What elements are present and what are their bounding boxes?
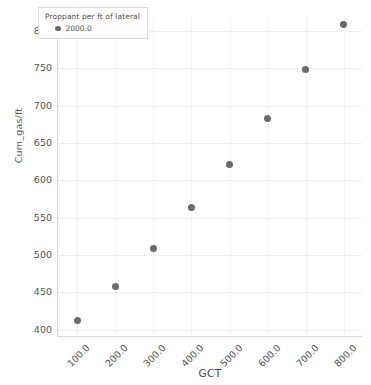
y-tick-label: 500 bbox=[10, 250, 52, 260]
legend-item[interactable]: 2000.0 bbox=[45, 24, 140, 33]
data-point bbox=[112, 283, 119, 290]
y-tick-label: 700 bbox=[10, 101, 52, 111]
data-point bbox=[188, 204, 195, 211]
data-point bbox=[226, 161, 233, 168]
gridline-horizontal bbox=[58, 106, 362, 107]
gridline-horizontal bbox=[58, 180, 362, 181]
gridline-vertical bbox=[153, 16, 154, 336]
y-tick-label: 550 bbox=[10, 213, 52, 223]
y-tick-label: 750 bbox=[10, 63, 52, 73]
data-point bbox=[302, 66, 309, 73]
gridline-horizontal bbox=[58, 218, 362, 219]
scatter-chart: Cum_gas/ft 400450500550600650700750800 1… bbox=[0, 0, 371, 385]
y-tick-label: 450 bbox=[10, 287, 52, 297]
legend-title: Proppant per ft of lateral bbox=[45, 12, 140, 21]
gridline-vertical bbox=[230, 16, 231, 336]
gridline-vertical bbox=[191, 16, 192, 336]
data-point bbox=[340, 21, 347, 28]
legend-item-label: 2000.0 bbox=[66, 24, 92, 33]
data-point bbox=[264, 115, 271, 122]
gridline-vertical bbox=[268, 16, 269, 336]
plot-area bbox=[57, 16, 362, 337]
gridline-vertical bbox=[344, 16, 345, 336]
gridline-horizontal bbox=[58, 68, 362, 69]
gridline-vertical bbox=[77, 16, 78, 336]
legend-entries: 2000.0 bbox=[45, 24, 140, 33]
data-point bbox=[150, 245, 157, 252]
legend-marker-icon bbox=[55, 26, 61, 32]
y-tick-label: 650 bbox=[10, 138, 52, 148]
gridline-horizontal bbox=[58, 255, 362, 256]
x-axis-title: GCT bbox=[55, 367, 365, 379]
y-tick-label: 400 bbox=[10, 325, 52, 335]
y-axis-title: Cum_gas/ft bbox=[13, 81, 24, 191]
y-tick-label: 600 bbox=[10, 175, 52, 185]
gridline-horizontal bbox=[58, 330, 362, 331]
data-point bbox=[74, 317, 81, 324]
gridline-vertical bbox=[306, 16, 307, 336]
gridline-horizontal bbox=[58, 143, 362, 144]
legend: Proppant per ft of lateral 2000.0 bbox=[38, 7, 148, 39]
gridline-horizontal bbox=[58, 292, 362, 293]
